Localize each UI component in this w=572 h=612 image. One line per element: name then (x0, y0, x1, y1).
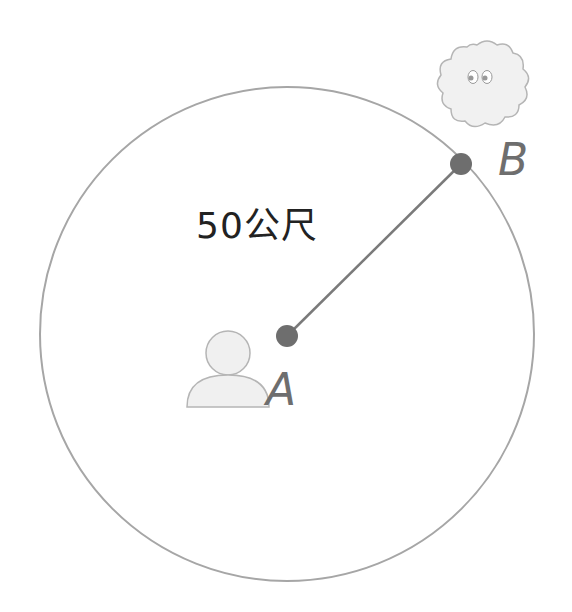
diagram-canvas: 50公尺 A B (0, 0, 572, 612)
point-a-label: A (266, 364, 296, 415)
point-a (276, 325, 298, 347)
distance-label: 50公尺 (196, 196, 318, 248)
person-icon (187, 331, 269, 407)
cloud-creature-icon (437, 41, 528, 127)
radius-line (287, 164, 461, 336)
point-b (450, 153, 472, 175)
diagram-svg (0, 0, 572, 612)
point-b-label: B (498, 134, 528, 185)
